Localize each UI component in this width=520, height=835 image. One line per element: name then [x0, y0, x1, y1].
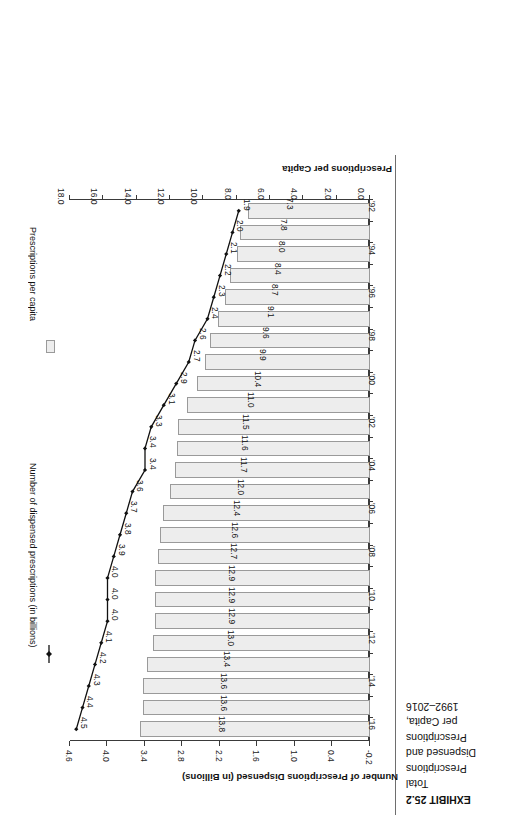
primary-axis-tick: [302, 195, 303, 200]
secondary-axis-tick-label: 4.6: [64, 750, 74, 762]
secondary-axis-tick: [332, 741, 333, 746]
line-marker: [87, 684, 91, 688]
primary-axis-tick-label: 2.0: [323, 188, 333, 200]
line-marker: [105, 576, 109, 580]
primary-axis-tick: [202, 195, 203, 200]
bar-swatch-icon: [46, 340, 55, 353]
category-axis-tick: [370, 221, 373, 222]
line-marker: [105, 598, 109, 602]
line-marker: [237, 209, 241, 213]
line-value-label: 4.4: [86, 696, 96, 708]
line-value-label: 4.5: [79, 717, 89, 729]
primary-axis-tick-label: 8.0: [223, 188, 233, 200]
secondary-axis-tick-label: 2.2: [214, 750, 224, 762]
line-value-label: 3.4: [148, 436, 158, 448]
caption-line-0: Total: [406, 776, 502, 792]
legend-label-line: Number of dispensed prescriptions (in bi…: [28, 463, 38, 648]
caption-line-2: Dispensed and: [406, 745, 502, 761]
line-marker: [105, 619, 109, 623]
line-value-label: 2.0: [236, 220, 246, 232]
line-value-label: 4.1: [104, 631, 114, 643]
caption-line-5: 1992–2016: [406, 699, 502, 715]
line-value-label: 2.6: [198, 328, 208, 340]
line-value-label: 4.2: [98, 652, 108, 664]
line-value-label: 3.8: [123, 523, 133, 535]
category-axis-tick: [370, 696, 373, 697]
category-axis-tick: [370, 523, 373, 524]
secondary-axis-tick: [369, 741, 370, 746]
category-axis-label: '06: [367, 492, 377, 514]
category-axis-tick: [370, 393, 373, 394]
line-value-label: 3.7: [129, 501, 139, 513]
secondary-axis-tick: [107, 741, 108, 746]
legend-label-bar: Prescriptions per capita: [28, 227, 38, 321]
category-axis-tick: [370, 566, 373, 567]
secondary-axis-tick-label: 4.0: [102, 750, 112, 762]
category-axis-tick: [370, 480, 373, 481]
line-value-label: 4.3: [92, 674, 102, 686]
chart-legend: Number of dispensed prescriptions (in bi…: [14, 205, 58, 725]
primary-axis-tick: [269, 195, 270, 200]
line-value-label: 2.7: [192, 350, 202, 362]
primary-axis-tick-label: 16.0: [89, 188, 99, 205]
category-axis-tick: [370, 437, 373, 438]
category-axis-tick: [370, 609, 373, 610]
caption-line-1: Prescriptions: [406, 761, 502, 777]
secondary-axis-tick: [257, 741, 258, 746]
line-marker: [124, 511, 128, 515]
line-marker: [224, 252, 228, 256]
line-value-label: 3.3: [154, 415, 164, 427]
category-axis-label: '10: [367, 579, 377, 601]
exhibit-page: EXHIBIT 25.2 Total Prescriptions Dispens…: [0, 0, 520, 835]
secondary-axis-tick-label: 2.8: [177, 750, 187, 762]
caption-line-3: Prescriptions: [406, 730, 502, 746]
line-value-label: 2.2: [223, 264, 233, 276]
line-marker-icon: [38, 643, 60, 665]
line-value-label: 3.9: [117, 544, 127, 556]
primary-axis-tick-label: 14.0: [123, 188, 133, 205]
line-value-label: 1.9: [242, 199, 252, 211]
line-marker: [80, 706, 84, 710]
category-axis-tick: [370, 653, 373, 654]
primary-axis-tick: [69, 195, 70, 200]
line-value-label: 4.0: [111, 609, 121, 621]
primary-axis-tick-label: 18.0: [56, 188, 66, 205]
category-axis-label: '02: [367, 406, 377, 428]
line-value-label: 2.4: [211, 307, 221, 319]
line-value-label: 4.0: [111, 566, 121, 578]
line-marker: [118, 533, 122, 537]
secondary-axis-tick-label: -0.2: [364, 750, 374, 765]
line-series-group: [70, 200, 370, 740]
primary-axis-title: Prescriptions per Capita: [282, 164, 392, 175]
line-marker: [112, 554, 116, 558]
line-value-label: 3.1: [167, 393, 177, 405]
line-marker: [143, 446, 147, 450]
line-value-label: 3.4: [148, 458, 158, 470]
exhibit-caption: EXHIBIT 25.2 Total Prescriptions Dispens…: [406, 699, 502, 808]
chart-plot-area: 7.37.88.08.48.79.19.69.910.411.011.511.6…: [70, 200, 370, 740]
secondary-axis-tick: [144, 741, 145, 746]
category-axis-label: '92: [367, 190, 377, 212]
line-marker: [212, 295, 216, 299]
secondary-axis-tick: [182, 741, 183, 746]
category-axis-label: '08: [367, 535, 377, 557]
category-axis-label: '96: [367, 276, 377, 298]
caption-line-4: per Capita,: [406, 714, 502, 730]
category-axis-label: '94: [367, 233, 377, 255]
line-marker: [74, 727, 78, 731]
primary-axis-tick-label: 0.0: [356, 188, 366, 200]
category-axis-tick: [370, 307, 373, 308]
category-axis-label: '98: [367, 319, 377, 341]
line-value-label: 2.1: [229, 242, 239, 254]
line-marker: [230, 230, 234, 234]
line-marker: [99, 641, 103, 645]
primary-axis-tick-label: 12.0: [156, 188, 166, 205]
category-axis-tick: [370, 264, 373, 265]
secondary-axis-tick: [69, 741, 70, 746]
primary-axis-tick-label: 6.0: [256, 188, 266, 200]
line-value-label: 3.6: [136, 480, 146, 492]
primary-axis-tick: [236, 195, 237, 200]
line-value-label: 2.9: [179, 372, 189, 384]
category-axis-label: '04: [367, 449, 377, 471]
caption-divider-rule: [395, 155, 396, 815]
